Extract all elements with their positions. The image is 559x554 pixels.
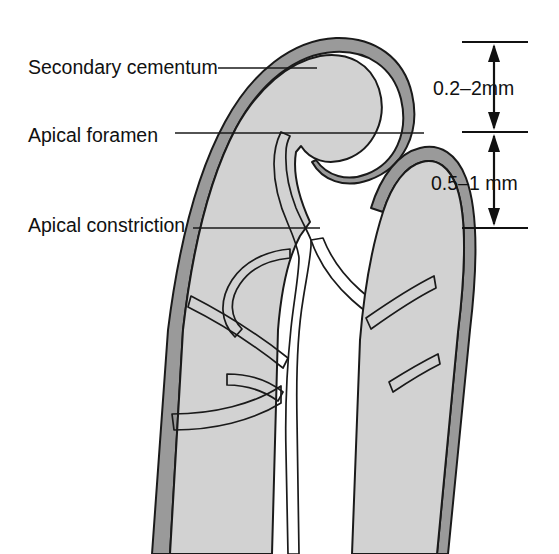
label-apical-constriction: Apical constriction bbox=[28, 214, 185, 236]
label-secondary-cementum: Secondary cementum bbox=[28, 56, 218, 78]
scale-label-lower: 0.5–1 mm bbox=[431, 172, 518, 194]
diagram-canvas: Secondary cementum Apical foramen Apical… bbox=[0, 0, 559, 554]
scale-label-upper: 0.2–2mm bbox=[433, 77, 514, 99]
label-apical-foramen: Apical foramen bbox=[28, 124, 158, 146]
apical-anatomy-figure: Secondary cementum Apical foramen Apical… bbox=[0, 0, 559, 554]
